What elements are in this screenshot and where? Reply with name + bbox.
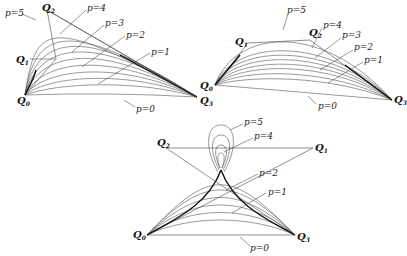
figure-right: p=5 p=4 p=3 p=2 p=1 p=0 Q1 Q2 Q0 Q3	[200, 5, 407, 111]
label-p4: p=4	[254, 131, 273, 141]
label-q2: Q2	[157, 137, 170, 149]
label-q3: Q3	[297, 231, 310, 243]
tangent-edge	[345, 65, 392, 100]
label-p2: p=2	[259, 168, 278, 178]
tangent-edge	[120, 55, 197, 97]
label-p4: p=4	[323, 20, 342, 30]
label-p3: p=3	[105, 18, 124, 28]
figure-left: p=5 p=4 p=3 p=2 p=1 p=0 Q2 Q1 Q0 Q3	[5, 2, 213, 114]
label-p2: p=2	[126, 30, 145, 40]
arrow-p5	[22, 14, 36, 20]
curve-p0	[215, 85, 392, 100]
label-q1: Q1	[235, 36, 248, 48]
arrow-p2	[226, 174, 258, 190]
arrow-p5	[283, 14, 288, 30]
label-p4: p=4	[87, 3, 106, 13]
label-p2: p=2	[354, 42, 373, 52]
figure-bottom: p=5 p=4 p=2 p=1 p=0 Q2 Q1 Q0 Q3	[133, 117, 328, 253]
label-p5: p=5	[5, 8, 24, 18]
label-p3: p=3	[342, 30, 361, 40]
label-p1: p=1	[364, 55, 383, 65]
arrow-p3	[315, 38, 341, 58]
curve	[25, 58, 197, 97]
label-p1: p=1	[268, 187, 287, 197]
curve	[215, 69, 392, 100]
curve	[147, 213, 295, 236]
label-p0: p=0	[318, 101, 337, 111]
label-q3: Q3	[394, 94, 407, 106]
label-q1: Q1	[16, 54, 29, 66]
arrow-p0	[124, 100, 135, 107]
label-q0: Q0	[133, 229, 147, 241]
arrow-p5	[230, 124, 243, 130]
loop-p4	[212, 135, 229, 170]
label-q0: Q0	[200, 80, 214, 92]
label-p0: p=0	[136, 104, 155, 114]
label-p5: p=5	[287, 5, 306, 15]
curve	[25, 46, 197, 97]
curve-p0	[25, 94, 197, 97]
curve	[25, 85, 197, 97]
label-q0: Q0	[17, 95, 31, 107]
arrow-p0	[240, 237, 250, 246]
bezier-family-diagram: p=5 p=4 p=3 p=2 p=1 p=0 Q2 Q1 Q0 Q3 p=5 …	[0, 0, 407, 256]
label-p1: p=1	[151, 47, 170, 57]
label-q2: Q2	[309, 27, 322, 39]
curve	[147, 198, 295, 236]
label-q3: Q3	[200, 95, 213, 107]
arrow-p3	[72, 25, 104, 52]
label-q1: Q1	[315, 142, 328, 154]
label-p5: p=5	[244, 117, 263, 127]
arrow-p0	[308, 96, 316, 104]
loop	[216, 145, 227, 168]
label-p0: p=0	[250, 243, 269, 253]
curve-p3	[25, 52, 197, 97]
label-q2: Q2	[42, 2, 55, 14]
